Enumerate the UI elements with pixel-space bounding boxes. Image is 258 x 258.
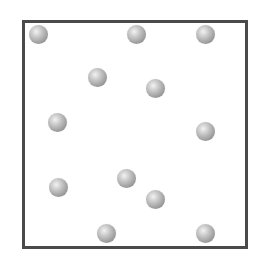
particle-sphere	[49, 178, 68, 197]
particle-sphere	[97, 224, 116, 243]
particle-sphere	[29, 25, 48, 44]
particle-sphere	[146, 79, 165, 98]
particle-sphere	[146, 190, 165, 209]
particle-sphere	[88, 68, 107, 87]
particle-sphere	[117, 169, 136, 188]
particle-sphere	[48, 113, 67, 132]
particle-sphere	[196, 122, 215, 141]
particle-sphere	[196, 25, 215, 44]
particle-sphere	[196, 224, 215, 243]
particle-sphere	[127, 25, 146, 44]
